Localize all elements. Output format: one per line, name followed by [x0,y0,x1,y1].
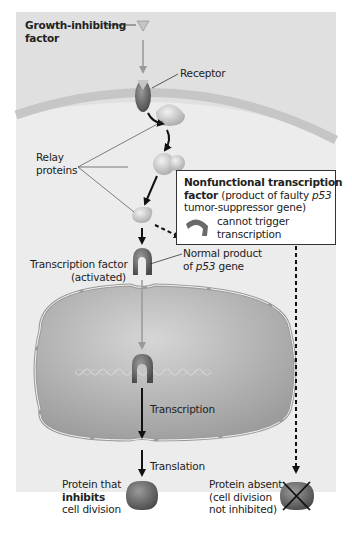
p53-pathway-diagram: Growth-inhibiting factor Receptor Relay … [0,0,352,537]
translation-label: Translation [150,460,205,473]
inhibiting-protein-label: Protein that inhibits cell division [62,478,121,516]
transcription-factor-label: Transcription factor (activated) [30,258,126,283]
inhibiting-protein-icon [126,481,158,510]
nonfunctional-tf-icon [183,216,213,240]
nonfunctional-tf-box: Nonfunctional transcription factor (prod… [176,170,336,245]
relay-proteins-label: Relay proteins [36,151,77,176]
nonfunctional-tf-text: Nonfunctional transcription factor (prod… [184,176,342,214]
normal-product-label: Normal product of p53 gene [183,247,262,272]
receptor-label: Receptor [180,67,225,80]
transcription-label: Transcription [150,403,215,416]
growth-factor-label: Growth-inhibiting factor [25,19,126,44]
protein-absent-label: Protein absent (cell division not inhibi… [209,478,282,516]
nucleus [35,285,295,440]
cannot-trigger-text: cannot trigger transcription [217,215,289,240]
